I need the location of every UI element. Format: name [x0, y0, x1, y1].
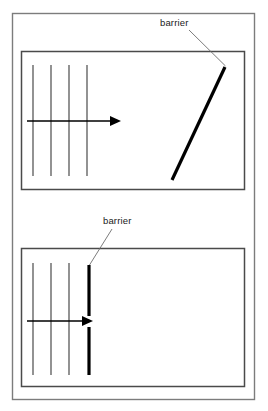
- barrier-label-top: barrier: [160, 17, 189, 28]
- panel-border-bottom: [22, 249, 245, 387]
- figure-root: barrier barrier: [0, 0, 268, 411]
- barrier-label-bottom: barrier: [103, 215, 132, 226]
- wave-barrier-diagram: barrier barrier: [0, 0, 268, 411]
